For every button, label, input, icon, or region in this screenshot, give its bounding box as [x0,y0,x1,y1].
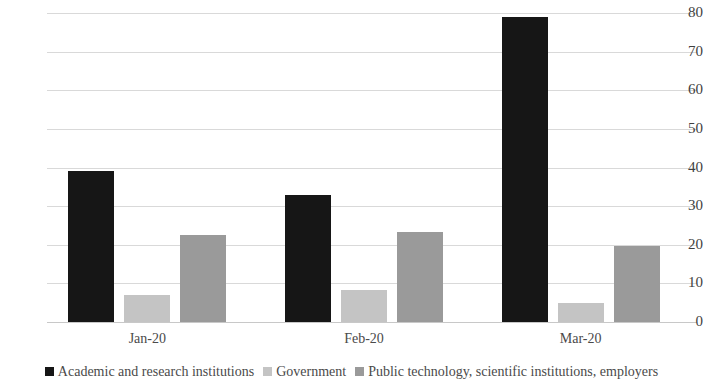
legend-label: Public technology, scientific institutio… [368,363,658,380]
x-tick-label: Feb-20 [285,331,443,347]
y-tick-label: 30 [665,198,703,213]
y-tick-label: 10 [665,275,703,290]
legend-swatch-icon [45,367,54,376]
gridline [47,322,697,323]
x-tick-label: Jan-20 [68,331,226,347]
bar [614,246,660,322]
bar [502,17,548,322]
chart-legend: Academic and research institutionsGovern… [0,363,703,380]
y-tick-label: 20 [665,237,703,252]
bar-chart: 01020304050607080 Jan-20Feb-20Mar-20 Aca… [0,0,703,383]
x-tick-label: Mar-20 [502,331,660,347]
y-tick-label: 80 [665,5,703,20]
bar [558,303,604,322]
legend-swatch-icon [263,367,272,376]
y-tick-label: 40 [665,160,703,175]
legend-item[interactable]: Academic and research institutions [45,363,254,380]
y-axis [0,0,45,383]
y-tick-label: 70 [665,44,703,59]
legend-label: Academic and research institutions [58,363,254,380]
legend-item[interactable]: Government [263,363,346,380]
legend-item[interactable]: Public technology, scientific institutio… [355,363,658,380]
bar-group [47,13,697,322]
plot-area [47,13,697,322]
y-tick-label: 50 [665,121,703,136]
y-tick-label: 0 [665,314,703,329]
y-tick-label: 60 [665,82,703,97]
legend-swatch-icon [355,367,364,376]
legend-label: Government [276,363,346,380]
